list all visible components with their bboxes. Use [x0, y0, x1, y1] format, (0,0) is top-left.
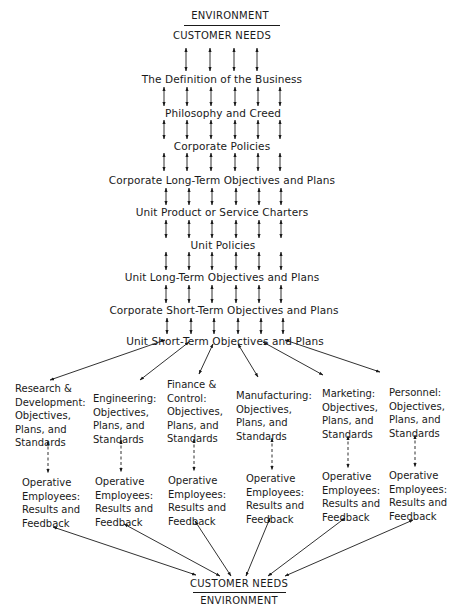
dept-line: Marketing: — [322, 387, 378, 401]
operative-line: Operative — [168, 474, 226, 488]
dept-line: Standards — [322, 428, 378, 442]
operative-line: Operative — [389, 469, 447, 483]
dept-line: Standards — [15, 436, 86, 450]
operative-line: Operative — [22, 476, 80, 490]
bottom-environment-label: ENVIRONMENT — [200, 595, 278, 606]
dept-finance-control: Finance & Control: Objectives, Plans, an… — [167, 378, 223, 446]
dept-line: Plans, and — [167, 419, 223, 433]
dept-line: Research & — [15, 382, 86, 396]
operative-engineering: Operative Employees: Results and Feedbac… — [95, 475, 153, 529]
operative-line: Feedback — [246, 513, 304, 527]
operative-line: Feedback — [389, 510, 447, 524]
operative-line: Employees: — [168, 488, 226, 502]
top-environment-label: ENVIRONMENT — [191, 10, 269, 21]
dept-line: Plans, and — [322, 414, 378, 428]
operative-line: Feedback — [322, 511, 380, 525]
operative-marketing: Operative Employees: Results and Feedbac… — [322, 470, 380, 524]
dept-personnel: Personnel: Objectives, Plans, and Standa… — [389, 386, 445, 440]
dept-line: Development: — [15, 396, 86, 410]
level-unit-long-term: Unit Long-Term Objectives and Plans — [125, 271, 320, 283]
operative-line: Results and — [95, 502, 153, 516]
dept-line: Manufacturing: — [236, 389, 312, 403]
dept-line: Engineering: — [93, 392, 156, 406]
operative-line: Feedback — [168, 515, 226, 529]
operative-line: Results and — [246, 499, 304, 513]
top-divider — [184, 25, 280, 26]
dept-line: Control: — [167, 392, 223, 406]
dept-line: Objectives, — [236, 403, 312, 417]
operative-line: Results and — [22, 503, 80, 517]
operative-line: Results and — [322, 497, 380, 511]
dept-line: Standards — [389, 427, 445, 441]
dept-line: Objectives, — [15, 409, 86, 423]
operative-line: Employees: — [95, 489, 153, 503]
operative-line: Operative — [246, 472, 304, 486]
bottom-customer-needs-label: CUSTOMER NEEDS — [190, 578, 288, 589]
dept-line: Personnel: — [389, 386, 445, 400]
level-corporate-long-term: Corporate Long-Term Objectives and Plans — [109, 174, 335, 186]
level-corporate-short-term: Corporate Short-Term Objectives and Plan… — [109, 304, 338, 316]
dept-line: Standards — [236, 430, 312, 444]
operative-line: Operative — [322, 470, 380, 484]
operative-line: Employees: — [246, 486, 304, 500]
operative-research-development: Operative Employees: Results and Feedbac… — [22, 476, 80, 530]
operative-manufacturing: Operative Employees: Results and Feedbac… — [246, 472, 304, 526]
top-customer-needs-label: CUSTOMER NEEDS — [173, 30, 271, 41]
dept-engineering: Engineering: Objectives, Plans, and Stan… — [93, 392, 156, 446]
dept-line: Objectives, — [167, 405, 223, 419]
dept-line: Plans, and — [93, 419, 156, 433]
operative-line: Employees: — [22, 490, 80, 504]
operative-line: Feedback — [22, 517, 80, 531]
level-unit-policies: Unit Policies — [191, 239, 256, 251]
level-philosophy-and-creed: Philosophy and Creed — [165, 107, 281, 119]
operative-finance-control: Operative Employees: Results and Feedbac… — [168, 474, 226, 528]
operative-line: Employees: — [322, 484, 380, 498]
level-corporate-policies: Corporate Policies — [174, 140, 270, 152]
bottom-divider — [193, 592, 286, 593]
dept-line: Plans, and — [236, 416, 312, 430]
dept-line: Standards — [167, 432, 223, 446]
level-unit-product-charters: Unit Product or Service Charters — [136, 206, 308, 218]
dept-research-development: Research & Development: Objectives, Plan… — [15, 382, 86, 450]
dept-line: Objectives, — [389, 400, 445, 414]
level-unit-short-term: Unit Short-Term Objectives and Plans — [126, 335, 324, 347]
dept-line: Plans, and — [15, 423, 86, 437]
operative-line: Employees: — [389, 483, 447, 497]
operative-line: Results and — [168, 501, 226, 515]
dept-marketing: Marketing: Objectives, Plans, and Standa… — [322, 387, 378, 441]
dept-line: Finance & — [167, 378, 223, 392]
level-definition-of-business: The Definition of the Business — [142, 73, 302, 85]
dept-line: Plans, and — [389, 413, 445, 427]
operative-line: Results and — [389, 496, 447, 510]
operative-personnel: Operative Employees: Results and Feedbac… — [389, 469, 447, 523]
dept-line: Standards — [93, 433, 156, 447]
dept-line: Objectives, — [322, 401, 378, 415]
dept-manufacturing: Manufacturing: Objectives, Plans, and St… — [236, 389, 312, 443]
dept-line: Objectives, — [93, 406, 156, 420]
operative-line: Feedback — [95, 516, 153, 530]
operative-line: Operative — [95, 475, 153, 489]
